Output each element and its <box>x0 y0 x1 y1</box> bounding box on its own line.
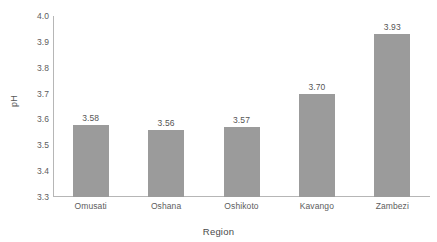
bar <box>374 34 410 197</box>
bar-value-label: 3.70 <box>297 82 337 92</box>
y-axis-tick-labels: 4.03.93.83.73.63.53.43.3 <box>21 16 49 197</box>
bar <box>224 127 260 197</box>
y-axis-tick-label: 3.8 <box>23 63 49 73</box>
x-axis-tick-label: Kavango <box>282 201 352 211</box>
x-axis-tick-label: Oshikoto <box>207 201 277 211</box>
y-axis-tick-label: 3.4 <box>23 166 49 176</box>
bar <box>299 94 335 197</box>
y-axis-tick-label: 3.9 <box>23 37 49 47</box>
bar-chart: pH 4.03.93.83.73.63.53.43.3 3.583.563.57… <box>0 0 437 242</box>
bar-value-label: 3.57 <box>222 115 262 125</box>
y-axis-tick-label: 3.7 <box>23 89 49 99</box>
y-axis-title: pH <box>9 89 19 113</box>
x-axis-title: Region <box>0 226 437 237</box>
bar-value-label: 3.58 <box>71 113 111 123</box>
x-axis-tick-label: Oshana <box>131 201 201 211</box>
bar-value-label: 3.56 <box>146 118 186 128</box>
bar <box>73 125 109 197</box>
bar <box>148 130 184 197</box>
x-axis-tick-label: Omusati <box>56 201 126 211</box>
y-axis-tick-label: 3.3 <box>23 192 49 202</box>
y-axis-tick-label: 3.6 <box>23 114 49 124</box>
x-axis-tick-label: Zambezi <box>357 201 427 211</box>
y-axis-tick-label: 3.5 <box>23 140 49 150</box>
y-axis-tick-label: 4.0 <box>23 11 49 21</box>
bar-value-label: 3.93 <box>372 22 412 32</box>
plot-area: 3.583.563.573.703.93 <box>53 16 430 197</box>
